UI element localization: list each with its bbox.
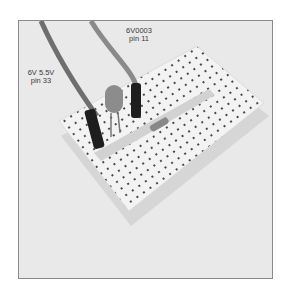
led (105, 85, 123, 113)
label-pin-33: 6V 5.5V pin 33 (21, 69, 61, 85)
label-line: pin 11 (117, 35, 161, 43)
label-line: pin 33 (21, 77, 61, 85)
photo-frame: 6V0003 pin 11 6V 5.5V pin 33 (18, 20, 273, 279)
label-pin-11: 6V0003 pin 11 (117, 27, 161, 43)
breadboard-photo (19, 21, 273, 279)
connector-top (131, 83, 141, 118)
